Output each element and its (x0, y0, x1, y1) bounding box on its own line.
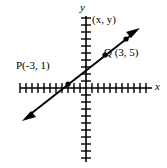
y-axis-label: y (80, 2, 85, 13)
line-pq-group (22, 28, 140, 121)
coordinate-plane-figure: x y (x, y) Q (3, 5) P(-3, 1) (0, 0, 167, 168)
point-p-dot (65, 81, 70, 86)
point-xy-dot (123, 36, 128, 41)
plot-canvas (0, 0, 167, 168)
x-axis-label: x (155, 81, 160, 92)
point-xy-label: (x, y) (92, 14, 116, 25)
y-axis-group (81, 16, 91, 162)
point-p-label: P(-3, 1) (16, 60, 50, 71)
point-q-label: Q (3, 5) (104, 47, 139, 58)
